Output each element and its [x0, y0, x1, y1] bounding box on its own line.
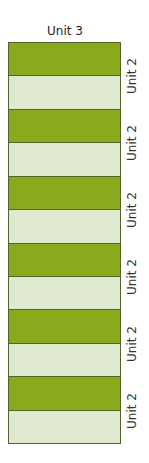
stripe-light: [9, 76, 120, 109]
unit-2-label: Unit 2: [121, 42, 143, 109]
unit-2-label-text: Unit 2: [125, 58, 139, 94]
stripe-light: [9, 277, 120, 310]
stripe-dark: [9, 310, 120, 343]
unit-2-label: Unit 2: [121, 243, 143, 310]
unit-2-label: Unit 2: [121, 310, 143, 377]
diagram-title: Unit 3: [8, 24, 122, 38]
unit-2-label-text: Unit 2: [125, 259, 139, 295]
unit-2-label-text: Unit 2: [125, 125, 139, 161]
stripe-dark: [9, 110, 120, 143]
stripe-dark: [9, 244, 120, 277]
stripe-dark: [9, 177, 120, 210]
stripe-light: [9, 143, 120, 176]
unit-2-label-text: Unit 2: [125, 393, 139, 429]
unit-2-label-text: Unit 2: [125, 192, 139, 228]
unit-2-label-text: Unit 2: [125, 326, 139, 362]
stripe-light: [9, 210, 120, 243]
stripe-dark: [9, 43, 120, 76]
unit-2-label: Unit 2: [121, 176, 143, 243]
stripe-dark: [9, 377, 120, 410]
stripe-light: [9, 411, 120, 443]
unit-2-label: Unit 2: [121, 377, 143, 444]
stripe-light: [9, 344, 120, 377]
unit-2-label: Unit 2: [121, 109, 143, 176]
unit-3-block: [8, 42, 121, 444]
